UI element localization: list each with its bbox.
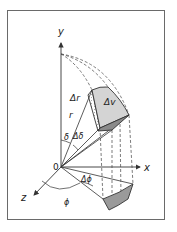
origin-label: 0 [53,162,59,172]
delta-r-label: Δr [69,93,81,103]
delta-theta-label: Δδ [72,132,83,141]
theta-label: δ [64,133,69,142]
phi-label: ϕ [64,198,70,207]
z-axis-label: z [20,192,27,203]
volume-element [88,87,129,131]
spherical-volume-diagram: y x z 0 r Δr Δv δ Δδ ϕ Δϕ [0,0,177,232]
projected-patch [103,184,133,210]
delta-phi-label: Δϕ [80,175,92,184]
radius-label: r [69,110,74,120]
x-axis-label: x [143,162,150,173]
delta-v-label: Δv [103,97,116,107]
y-axis-label: y [57,26,65,37]
